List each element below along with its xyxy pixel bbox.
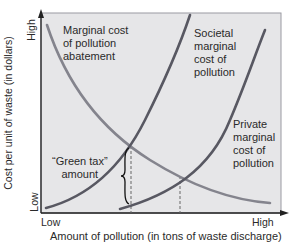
label-green-tax: “Green tax” amount: [52, 155, 108, 181]
x-axis-title: Amount of pollution (in tons of waste di…: [50, 230, 282, 242]
label-private-cost: Private marginal cost of pollution: [233, 118, 275, 170]
label-societal-cost: Societal marginal cost of pollution: [194, 27, 236, 79]
x-tick-low: Low: [41, 216, 60, 228]
label-abatement: Marginal cost of pollution abatement: [63, 24, 128, 63]
y-tick-low: Low: [28, 192, 40, 211]
y-axis-title: Cost per unit of waste (in dollars): [2, 36, 14, 189]
x-tick-high: High: [252, 216, 274, 228]
y-tick-high: High: [25, 19, 37, 41]
x-axis-arrow-icon: [280, 210, 289, 216]
